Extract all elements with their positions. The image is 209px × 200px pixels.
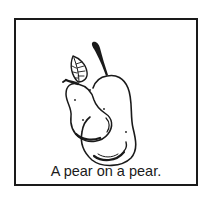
pear-illustration xyxy=(16,20,196,184)
big-pear-outline xyxy=(81,76,135,166)
big-pear-stem xyxy=(92,42,108,76)
small-pear-outline xyxy=(66,83,112,141)
picture-card: A pear on a pear. xyxy=(14,18,198,186)
caption: A pear on a pear. xyxy=(16,163,196,179)
